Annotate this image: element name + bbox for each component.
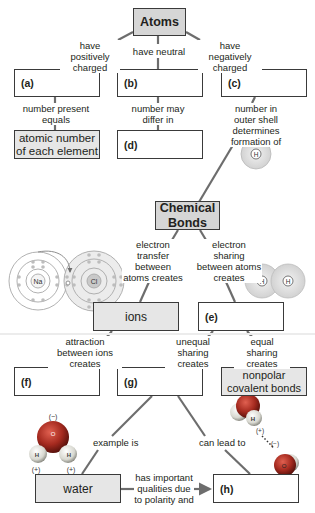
node-ions: ions (93, 302, 179, 331)
svg-text:Cl: Cl (91, 278, 98, 285)
link-label-water-h: has important qualities due to polarity … (134, 472, 194, 505)
node-b-blank[interactable]: (b) (117, 69, 203, 97)
node-water: water (35, 474, 121, 503)
svg-text:(+): (+) (32, 466, 41, 474)
link-label-ions-f: attraction between ions creates (48, 336, 122, 369)
svg-text:O: O (51, 431, 56, 437)
link-label-g-water: example is (93, 437, 138, 448)
svg-text:(−): (−) (271, 440, 279, 448)
svg-text:H: H (67, 452, 71, 458)
svg-text:H: H (286, 278, 291, 285)
link-label-atoms-b: have neutral (130, 46, 188, 57)
node-g-blank[interactable]: (g) (117, 367, 203, 396)
node-a-blank[interactable]: (a) (14, 69, 100, 97)
link-label-bonds-ions: electron transfer between atoms creates (122, 239, 184, 283)
node-c-blank[interactable]: (c) (221, 69, 307, 97)
link-label-c-bonds: number in outer shell determines formati… (223, 103, 289, 147)
svg-text:H: H (35, 452, 39, 458)
node-atomic-number: atomic number of each element (14, 130, 100, 159)
svg-text:(−): (−) (49, 413, 58, 421)
svg-text:H: H (251, 416, 255, 422)
node-d-blank[interactable]: (d) (117, 130, 203, 159)
node-nonpolar-covalent-bonds: nonpolar covalent bonds (221, 367, 307, 396)
node-h-blank[interactable]: (h) (213, 474, 299, 503)
link-label-b-d: number may differ in (130, 103, 186, 125)
node-atoms: Atoms (133, 8, 186, 36)
link-label-g-h: can lead to (199, 437, 245, 448)
svg-text:O: O (282, 463, 287, 469)
node-e-blank[interactable]: (e) (198, 302, 284, 331)
svg-text:H: H (254, 151, 259, 158)
link-label-atoms-c: have negatively charged (198, 40, 262, 73)
link-label-bonds-e: electron sharing between atoms creates (196, 239, 262, 283)
node-chemical-bonds: Chemical Bonds (155, 201, 220, 230)
section-divider (0, 333, 315, 335)
link-label-e-g: unequal sharing creates (165, 336, 221, 369)
link-label-a-atomic: number present equals (22, 103, 90, 125)
water-molecule-illustration: O H H (−) (+) (+) (29, 413, 77, 474)
svg-text:Na: Na (34, 278, 43, 285)
link-label-e-nonpolar: equal sharing creates (234, 336, 290, 369)
svg-text:(+): (+) (67, 466, 76, 474)
svg-text:(+): (+) (256, 427, 264, 435)
node-f-blank[interactable]: (f) (14, 367, 100, 396)
link-label-atoms-a: have positively charged (60, 40, 120, 73)
